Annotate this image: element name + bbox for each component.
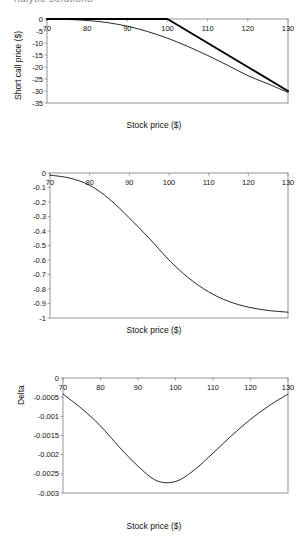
data-series-line — [50, 175, 288, 312]
x-tick-label: 110 — [202, 24, 214, 33]
y-tick-label: -35 — [32, 99, 43, 108]
x-tick-label: 120 — [242, 178, 255, 187]
data-series-line — [63, 394, 288, 483]
x-tick-label: 130 — [282, 383, 295, 392]
y-tick-label: -0.003 — [38, 489, 59, 498]
y-tick-label: -15 — [32, 51, 43, 60]
chart3-x-axis-title: Stock price ($) — [0, 521, 308, 531]
short-call-price-plot: 7080901001101201300-5-10-15-20-25-30-35 — [0, 0, 308, 140]
x-tick-label: 120 — [242, 24, 255, 33]
y-tick-label: -1 — [39, 314, 46, 323]
x-tick-label: 70 — [46, 178, 54, 187]
y-tick-label: -0.1 — [33, 183, 46, 192]
y-tick-label: -0.0015 — [34, 431, 59, 440]
y-tick-label: -0.5 — [33, 241, 46, 250]
plot-frame — [50, 173, 288, 318]
y-tick-label: -0.7 — [33, 270, 46, 279]
y-tick-label: 0 — [39, 15, 43, 24]
figure-page: nalytic solutions 7080901001101201300-5-… — [0, 0, 308, 541]
y-tick-label: -0.8 — [33, 285, 46, 294]
x-tick-label: 100 — [163, 178, 176, 187]
y-tick-label: -20 — [32, 63, 43, 72]
y-tick-label: -0.002 — [38, 450, 59, 459]
chart-gamma: 7080901001101201300-0.0005-0.001-0.0015-… — [0, 345, 308, 541]
x-tick-label: 120 — [244, 383, 257, 392]
x-tick-label: 130 — [282, 24, 295, 33]
y-tick-label: -0.0025 — [34, 469, 59, 478]
y-tick-label: -0.0005 — [34, 393, 59, 402]
y-tick-label: -10 — [32, 39, 43, 48]
y-tick-label: -0.4 — [33, 227, 46, 236]
x-tick-label: 70 — [43, 24, 51, 33]
x-tick-label: 110 — [207, 383, 219, 392]
x-tick-label: 110 — [203, 178, 215, 187]
y-tick-label: 0 — [42, 169, 46, 178]
x-tick-label: 70 — [59, 383, 67, 392]
gamma-plot: 7080901001101201300-0.0005-0.001-0.0015-… — [0, 345, 308, 541]
chart1-y-axis-title: Short call price ($) — [13, 31, 23, 100]
x-tick-label: 80 — [96, 383, 104, 392]
x-tick-label: 100 — [169, 383, 182, 392]
y-tick-label: -0.3 — [33, 212, 46, 221]
x-tick-label: 90 — [134, 383, 142, 392]
x-tick-label: 90 — [125, 178, 133, 187]
x-tick-label: 80 — [83, 24, 91, 33]
y-tick-label: -30 — [32, 87, 43, 96]
y-tick-label: -5 — [36, 27, 43, 36]
y-tick-label: -25 — [32, 75, 43, 84]
plot-frame — [63, 378, 288, 493]
chart-short-call-price: 7080901001101201300-5-10-15-20-25-30-35 … — [0, 0, 308, 140]
chart1-x-axis-title: Stock price ($) — [0, 120, 308, 130]
x-tick-label: 130 — [282, 178, 295, 187]
y-tick-label: -0.2 — [33, 198, 46, 207]
chart2-x-axis-title: Stock price ($) — [0, 325, 308, 335]
chart-delta: 7080901001101201300-0.1-0.2-0.3-0.4-0.5-… — [0, 140, 308, 345]
y-tick-label: 0 — [55, 374, 59, 383]
delta-plot: 7080901001101201300-0.1-0.2-0.3-0.4-0.5-… — [0, 140, 308, 345]
x-tick-label: 100 — [161, 24, 174, 33]
y-tick-label: -0.001 — [38, 412, 59, 421]
y-tick-label: -0.6 — [33, 256, 46, 265]
y-tick-label: -0.9 — [33, 299, 46, 308]
